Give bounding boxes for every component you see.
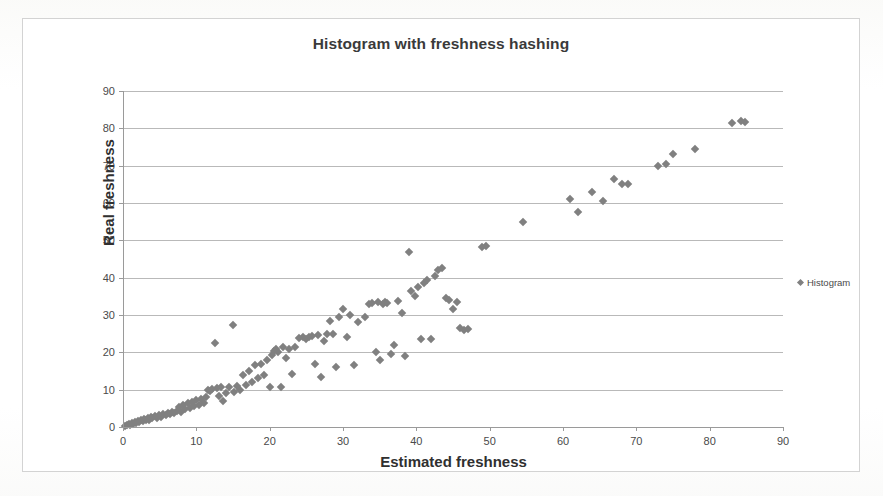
scatter-point xyxy=(386,350,394,358)
scatter-point xyxy=(394,297,402,305)
gridline xyxy=(123,315,783,316)
scatter-point xyxy=(599,197,607,205)
y-tick-mark xyxy=(119,315,123,316)
chart-page: Histogram with freshness hashing 0102030… xyxy=(0,0,883,496)
scatter-point xyxy=(350,361,358,369)
scatter-point xyxy=(328,329,336,337)
scatter-point xyxy=(287,370,295,378)
y-tick-label: 90 xyxy=(81,85,115,97)
scatter-point xyxy=(346,311,354,319)
x-tick-mark xyxy=(563,427,564,431)
x-tick-label: 10 xyxy=(179,435,213,447)
scatter-point xyxy=(610,174,618,182)
scatter-point xyxy=(376,356,384,364)
x-tick-label: 30 xyxy=(326,435,360,447)
scatter-point xyxy=(282,354,290,362)
scatter-point xyxy=(691,145,699,153)
legend-label: Histogram xyxy=(807,277,850,288)
scatter-point xyxy=(390,341,398,349)
scatter-point xyxy=(210,339,218,347)
x-axis-line xyxy=(123,427,784,428)
y-tick-label: 30 xyxy=(81,309,115,321)
chart-frame: Histogram with freshness hashing 0102030… xyxy=(22,18,860,472)
y-tick-mark xyxy=(119,203,123,204)
gridline xyxy=(123,91,783,92)
y-tick-mark xyxy=(119,240,123,241)
scatter-point xyxy=(416,335,424,343)
x-tick-mark xyxy=(196,427,197,431)
x-tick-label: 20 xyxy=(253,435,287,447)
y-axis-line xyxy=(123,91,124,428)
scatter-point xyxy=(229,321,237,329)
x-tick-label: 90 xyxy=(766,435,800,447)
x-tick-mark xyxy=(270,427,271,431)
x-tick-label: 0 xyxy=(106,435,140,447)
x-tick-mark xyxy=(343,427,344,431)
scatter-point xyxy=(339,305,347,313)
y-tick-mark xyxy=(119,128,123,129)
y-axis-title: Real freshness xyxy=(100,98,117,288)
scatter-point xyxy=(397,309,405,317)
scatter-point xyxy=(423,275,431,283)
x-tick-label: 50 xyxy=(473,435,507,447)
scatter-point xyxy=(342,333,350,341)
gridline xyxy=(123,203,783,204)
gridline xyxy=(123,166,783,167)
scatter-point xyxy=(326,316,334,324)
scatter-point xyxy=(219,397,227,405)
scatter-point xyxy=(727,118,735,126)
chart-title: Histogram with freshness hashing xyxy=(23,35,859,53)
gridline xyxy=(123,240,783,241)
scatter-point xyxy=(427,335,435,343)
scatter-point xyxy=(623,179,631,187)
scatter-point xyxy=(405,247,413,255)
y-tick-label: 0 xyxy=(81,421,115,433)
y-tick-label: 20 xyxy=(81,346,115,358)
legend-marker-icon xyxy=(797,279,804,286)
x-tick-mark xyxy=(636,427,637,431)
x-tick-mark xyxy=(490,427,491,431)
scatter-point xyxy=(573,208,581,216)
y-tick-label: 10 xyxy=(81,384,115,396)
plot-area xyxy=(123,91,783,427)
chart-legend: Histogram xyxy=(798,277,850,288)
scatter-point xyxy=(353,318,361,326)
x-tick-label: 60 xyxy=(546,435,580,447)
x-tick-label: 40 xyxy=(399,435,433,447)
scatter-point xyxy=(411,292,419,300)
y-tick-mark xyxy=(119,352,123,353)
x-tick-mark xyxy=(123,427,124,431)
scatter-point xyxy=(317,372,325,380)
scatter-point xyxy=(445,296,453,304)
gridline xyxy=(123,352,783,353)
x-axis-title: Estimated freshness xyxy=(123,453,784,470)
scatter-point xyxy=(449,305,457,313)
scatter-point xyxy=(311,359,319,367)
scatter-point xyxy=(669,150,677,158)
x-tick-mark xyxy=(416,427,417,431)
x-tick-mark xyxy=(710,427,711,431)
y-tick-mark xyxy=(119,166,123,167)
scatter-point xyxy=(361,313,369,321)
scatter-point xyxy=(331,363,339,371)
y-tick-mark xyxy=(119,278,123,279)
y-tick-mark xyxy=(119,91,123,92)
scatter-point xyxy=(661,160,669,168)
x-tick-mark xyxy=(783,427,784,431)
y-tick-mark xyxy=(119,390,123,391)
scatter-point xyxy=(518,217,526,225)
scatter-point xyxy=(588,188,596,196)
gridline xyxy=(123,278,783,279)
gridline xyxy=(123,128,783,129)
scatter-point xyxy=(335,313,343,321)
x-tick-label: 70 xyxy=(619,435,653,447)
x-tick-label: 80 xyxy=(693,435,727,447)
